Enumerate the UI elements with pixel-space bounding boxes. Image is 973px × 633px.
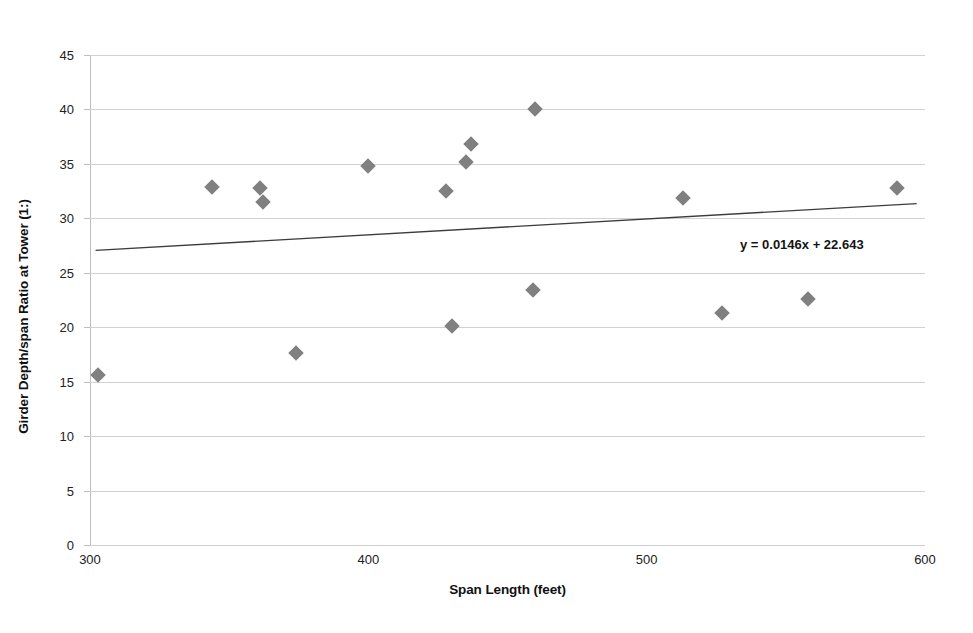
gridline-y-15 xyxy=(90,382,925,383)
y-tick-label-0: 0 xyxy=(14,538,74,553)
data-point xyxy=(458,154,474,170)
y-tick-label-40: 40 xyxy=(14,102,74,117)
gridline-y-5 xyxy=(90,491,925,492)
data-point xyxy=(525,282,541,298)
data-point xyxy=(255,194,271,210)
trendline-equation-label: y = 0.0146x + 22.643 xyxy=(740,237,864,252)
y-tick-label-10: 10 xyxy=(14,429,74,444)
gridline-y-45 xyxy=(90,55,925,56)
gridline-y-10 xyxy=(90,436,925,437)
data-point xyxy=(889,180,905,196)
gridline-y-25 xyxy=(90,273,925,274)
x-tick-label-500: 500 xyxy=(607,552,687,567)
y-tick-label-20: 20 xyxy=(14,320,74,335)
data-point xyxy=(714,305,730,321)
data-point xyxy=(288,346,304,362)
scatter-chart: Girder Depth/span Ratio at Tower (1:) Sp… xyxy=(0,0,973,633)
gridline-y-0 xyxy=(90,545,925,546)
x-tick-label-300: 300 xyxy=(50,552,130,567)
x-tick-label-600: 600 xyxy=(885,552,965,567)
gridline-y-35 xyxy=(90,164,925,165)
data-point xyxy=(800,291,816,307)
y-tick-label-35: 35 xyxy=(14,156,74,171)
data-point xyxy=(91,367,107,383)
gridline-y-40 xyxy=(90,109,925,110)
trendline xyxy=(90,55,925,545)
x-axis-title: Span Length (feet) xyxy=(90,582,925,597)
x-tick-label-400: 400 xyxy=(328,552,408,567)
data-point xyxy=(444,318,460,334)
data-point xyxy=(205,179,221,195)
y-tick-label-30: 30 xyxy=(14,211,74,226)
y-tick-label-25: 25 xyxy=(14,265,74,280)
gridline-y-20 xyxy=(90,327,925,328)
y-tick-label-5: 5 xyxy=(14,483,74,498)
data-point xyxy=(361,158,377,174)
data-point xyxy=(438,183,454,199)
data-point xyxy=(675,190,691,206)
gridline-y-30 xyxy=(90,218,925,219)
data-point xyxy=(528,102,544,118)
data-point xyxy=(464,137,480,153)
y-tick-label-15: 15 xyxy=(14,374,74,389)
plot-area xyxy=(90,55,925,545)
data-point xyxy=(252,180,268,196)
y-tick-label-45: 45 xyxy=(14,48,74,63)
